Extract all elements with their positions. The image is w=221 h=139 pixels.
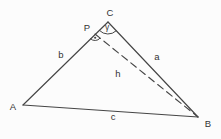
vertex-label-C: C bbox=[107, 7, 114, 18]
side-a-label: a bbox=[154, 51, 160, 62]
vertex-label-P: P bbox=[84, 22, 90, 33]
side-b-label: b bbox=[58, 49, 63, 60]
side-c-label: c bbox=[111, 111, 116, 122]
right-angle-at-P-dot bbox=[94, 37, 96, 39]
vertex-label-B: B bbox=[205, 118, 211, 129]
geometry-figure: bachγABCP bbox=[0, 0, 221, 139]
side-a-line bbox=[108, 22, 198, 117]
height-h-line bbox=[95, 34, 198, 117]
vertex-label-A: A bbox=[10, 101, 17, 112]
height-h-label: h bbox=[115, 68, 120, 79]
triangle-diagram: bachγABCP bbox=[0, 0, 221, 139]
